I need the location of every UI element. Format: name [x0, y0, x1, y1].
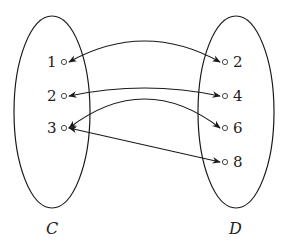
relations [69, 41, 220, 162]
set-c: 123 C [14, 16, 90, 238]
set-c-element-label: 2 [47, 87, 57, 105]
set-d-element-point [222, 159, 227, 164]
set-d: 2468 D [198, 16, 274, 238]
set-d-element-point [222, 125, 227, 130]
set-d-element-label: 8 [233, 153, 243, 171]
set-c-element-label: 3 [47, 119, 57, 137]
relation-arrow-1-2 [69, 41, 220, 62]
mapping-diagram: 123 C 2468 D [0, 0, 285, 249]
set-d-ellipse [198, 16, 274, 208]
set-c-element-label: 1 [47, 53, 57, 71]
set-c-element-point [61, 93, 66, 98]
set-c-ellipse [14, 16, 90, 208]
set-d-element-point [222, 59, 227, 64]
set-d-element-label: 2 [233, 53, 243, 71]
set-d-element-label: 4 [233, 87, 243, 105]
set-d-element-label: 6 [233, 119, 243, 137]
relation-arrow-3-6 [69, 99, 220, 128]
set-d-element-point [222, 93, 227, 98]
set-c-label: C [46, 219, 58, 238]
relation-arrow-3-8 [69, 128, 220, 162]
set-c-element-point [61, 125, 66, 130]
set-c-element-point [61, 59, 66, 64]
relation-arrow-2-4 [69, 88, 220, 96]
set-d-label: D [228, 219, 242, 238]
